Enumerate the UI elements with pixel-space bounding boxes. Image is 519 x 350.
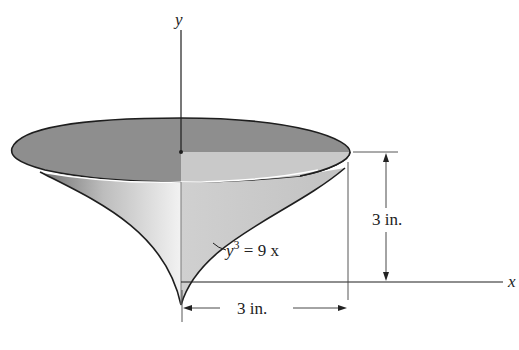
origin-top-dot	[179, 150, 183, 154]
height-dimension-label: 3 in.	[372, 210, 402, 229]
y-axis-label: y	[173, 10, 183, 29]
width-arrow-left-icon	[183, 305, 192, 311]
width-arrow-right-icon	[338, 305, 347, 311]
equation-label: y3 = 9 x	[224, 238, 279, 260]
surface-right-half	[181, 168, 345, 305]
x-axis-label: x	[507, 272, 516, 291]
diagram-canvas: y x y3 = 9 x 3 in. 3 in.	[0, 0, 519, 350]
height-arrow-up-icon	[383, 153, 389, 162]
height-arrow-down-icon	[383, 272, 389, 281]
width-dimension-label: 3 in.	[237, 299, 267, 318]
surface-left-half	[40, 172, 181, 305]
